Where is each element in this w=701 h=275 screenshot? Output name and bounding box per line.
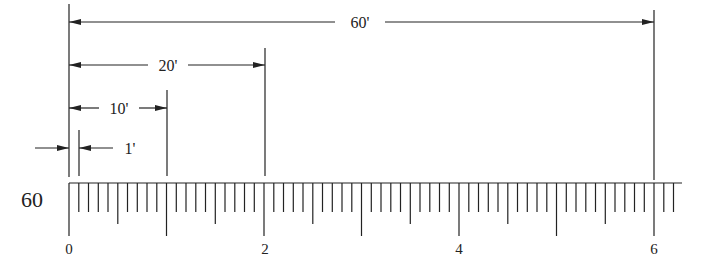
dimension-lines [35, 22, 654, 148]
scale-label: 60 [21, 189, 43, 211]
ruler-drawing [0, 0, 701, 275]
unit-label-2: 2 [261, 242, 269, 257]
dimension-label-1ft: 1' [122, 141, 139, 157]
unit-label-4: 4 [455, 242, 463, 257]
dimension-label-60ft: 60' [348, 15, 373, 31]
dimension-label-20ft: 20' [156, 58, 181, 74]
engineer-scale-diagram: 60' 20' 10' 1' 60 0 2 4 6 [0, 0, 701, 275]
dimension-label-10ft: 10' [107, 101, 132, 117]
unit-label-6: 6 [650, 242, 658, 257]
unit-label-0: 0 [65, 242, 73, 257]
scale-ruler [69, 183, 682, 236]
